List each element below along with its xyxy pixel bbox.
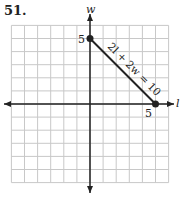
coordinate-graph: 5 5 l w 2l + 2w = 10 [0,0,182,197]
y-tick-label: 5 [78,33,85,46]
intercept-point-w [87,35,94,42]
y-axis-label: w [86,3,96,16]
x-tick-label: 5 [145,107,152,120]
equation-label: 2l + 2w = 10 [106,40,164,98]
intercept-point-l [152,101,159,108]
x-axis-label: l [176,97,180,110]
